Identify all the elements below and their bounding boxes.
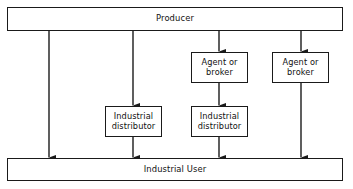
node-industrial-distributor-1-label: Industrial distributor <box>112 112 156 131</box>
node-industrial-distributor-1: Industrial distributor <box>105 106 162 137</box>
node-producer: Producer <box>7 7 343 31</box>
node-producer-label: Producer <box>156 14 194 24</box>
node-agent-or-broker-2-label: Agent or broker <box>282 58 318 77</box>
node-industrial-user: Industrial User <box>7 158 343 181</box>
node-agent-or-broker-2: Agent or broker <box>272 52 329 83</box>
industrial-marketing-channels-diagram: Producer Agent or broker Agent or broker… <box>0 0 353 189</box>
node-industrial-distributor-2: Industrial distributor <box>191 106 248 137</box>
node-industrial-user-label: Industrial User <box>144 165 207 175</box>
node-agent-or-broker-1: Agent or broker <box>191 52 248 83</box>
node-industrial-distributor-2-label: Industrial distributor <box>198 112 242 131</box>
node-agent-or-broker-1-label: Agent or broker <box>201 58 237 77</box>
